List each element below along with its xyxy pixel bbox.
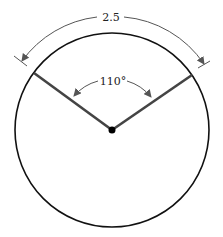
center-point: [109, 127, 116, 134]
arc-length-label: 2.5: [102, 11, 120, 24]
right-extension-tick: [198, 61, 210, 68]
arc-length-dimension-left: [22, 17, 97, 61]
central-angle-label: 110°: [100, 75, 127, 88]
diagram-canvas: 2.5 110°: [0, 0, 223, 237]
arc-length-dimension-right: [124, 17, 204, 64]
circle-sector-diagram: 2.5 110°: [0, 0, 223, 237]
angle-dimension-left: [74, 81, 98, 96]
angle-dimension-right: [127, 81, 151, 97]
